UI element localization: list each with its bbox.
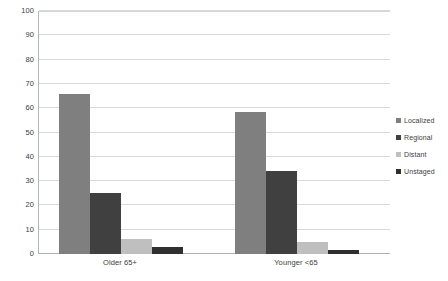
y-tick-label: 60 [0, 104, 34, 112]
bar-unstaged[interactable] [152, 247, 183, 254]
bar-chart: 0102030405060708090100 Older 65+Younger … [0, 0, 448, 281]
bar-distant[interactable] [297, 242, 328, 254]
y-tick-label: 10 [0, 226, 34, 234]
x-tick-label: Younger <65 [246, 258, 346, 268]
x-tick-label: Older 65+ [70, 258, 170, 268]
legend-label: Unstaged [404, 168, 435, 176]
x-axis: Older 65+Younger <65 [38, 258, 390, 276]
legend-label: Localized [404, 117, 434, 125]
bar-localized[interactable] [235, 112, 266, 254]
legend-label: Regional [404, 134, 432, 142]
bar-distant[interactable] [121, 239, 152, 254]
bar-slot [297, 12, 328, 254]
bar-slot [328, 12, 359, 254]
bars-layer [39, 12, 390, 254]
legend-item-distant[interactable]: Distant [396, 146, 448, 163]
bar-unstaged[interactable] [328, 250, 359, 254]
bar-regional[interactable] [90, 193, 121, 254]
bar-slot [266, 12, 297, 254]
y-tick-label: 90 [0, 31, 34, 39]
bar-group [235, 12, 359, 254]
y-tick-label: 40 [0, 153, 34, 161]
y-tick-label: 80 [0, 56, 34, 64]
y-tick-label: 70 [0, 80, 34, 88]
legend: LocalizedRegionalDistantUnstaged [396, 112, 448, 180]
legend-swatch-icon [396, 135, 401, 140]
legend-item-unstaged[interactable]: Unstaged [396, 163, 448, 180]
bar-group [59, 12, 183, 254]
legend-item-localized[interactable]: Localized [396, 112, 448, 129]
bar-slot [152, 12, 183, 254]
y-tick-label: 100 [0, 7, 34, 15]
gridline [39, 10, 390, 11]
legend-label: Distant [404, 151, 427, 159]
bar-slot [235, 12, 266, 254]
bar-slot [121, 12, 152, 254]
y-axis: 0102030405060708090100 [0, 0, 34, 281]
bar-slot [90, 12, 121, 254]
bar-localized[interactable] [59, 94, 90, 254]
legend-swatch-icon [396, 118, 401, 123]
legend-item-regional[interactable]: Regional [396, 129, 448, 146]
y-tick-label: 50 [0, 129, 34, 137]
plot-area [38, 11, 390, 254]
legend-swatch-icon [396, 169, 401, 174]
y-tick-label: 0 [0, 250, 34, 258]
legend-swatch-icon [396, 152, 401, 157]
bar-regional[interactable] [266, 171, 297, 254]
bar-slot [59, 12, 90, 254]
y-tick-label: 30 [0, 177, 34, 185]
y-tick-label: 20 [0, 201, 34, 209]
